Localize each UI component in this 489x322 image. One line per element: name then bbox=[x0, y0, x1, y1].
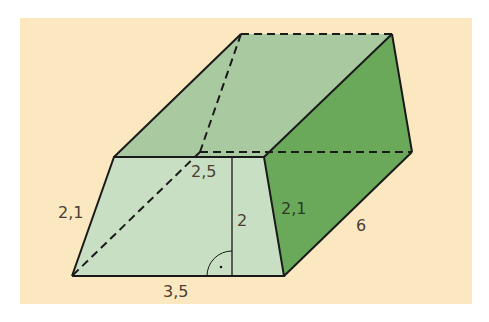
label-height: 2 bbox=[237, 211, 247, 230]
label-length: 6 bbox=[356, 216, 366, 235]
label-right-side: 2,1 bbox=[281, 199, 306, 218]
label-left-side: 2,1 bbox=[58, 203, 83, 222]
label-top-side: 2,5 bbox=[191, 162, 216, 181]
label-bottom-side: 3,5 bbox=[163, 282, 188, 301]
front-face bbox=[72, 157, 284, 276]
prism-diagram: 2,5 2,1 2 2,1 6 3,5 bbox=[0, 0, 489, 322]
